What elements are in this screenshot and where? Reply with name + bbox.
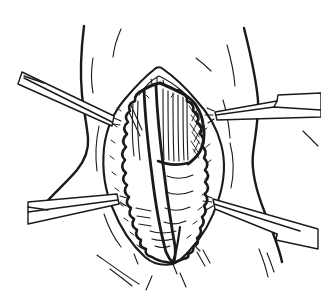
surgical-illustration: Line drawing of a surgical exposure of t… xyxy=(0,0,321,295)
retractor-step-line xyxy=(276,234,277,240)
illustration-svg xyxy=(0,0,321,295)
